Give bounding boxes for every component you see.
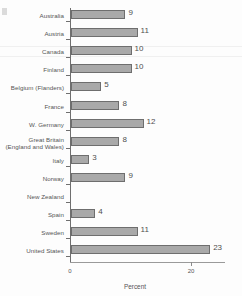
category-tick <box>66 184 70 185</box>
bar-chart: Australia9Austria11Canada10Finland10Belg… <box>0 0 242 296</box>
bar-value-label: 10 <box>135 62 144 71</box>
category-tick <box>66 75 70 76</box>
category-label: Belgium (Flanders) <box>0 84 64 91</box>
chart-row: United States23 <box>0 243 242 261</box>
bar-value-label: 3 <box>92 153 96 162</box>
category-label: Italy <box>0 157 64 164</box>
category-label: Sweden <box>0 229 64 236</box>
x-axis-tick-label: 20 <box>188 268 195 274</box>
chart-row: W. Germany12 <box>0 117 242 135</box>
category-tick <box>66 21 70 22</box>
x-axis-tick <box>191 262 192 266</box>
bar <box>71 82 101 91</box>
category-tick <box>66 93 70 94</box>
category-tick <box>66 39 70 40</box>
category-label: W. Germany <box>0 121 64 128</box>
x-axis-tick-label: 0 <box>68 268 71 274</box>
bar <box>71 227 138 236</box>
bar-value-label: 8 <box>122 99 126 108</box>
category-label: United States <box>0 247 64 254</box>
category-tick <box>66 256 70 257</box>
bar-value-label: 23 <box>213 243 222 252</box>
chart-row: Finland10 <box>0 62 242 80</box>
category-label: Norway <box>0 175 64 182</box>
category-tick <box>66 57 70 58</box>
category-tick <box>66 220 70 221</box>
bar-value-label: 4 <box>98 207 102 216</box>
bar <box>71 137 119 146</box>
category-tick <box>66 148 70 149</box>
chart-row: France8 <box>0 99 242 117</box>
chart-row: Austria11 <box>0 26 242 44</box>
category-label: Austria <box>0 30 64 37</box>
bar <box>71 245 210 254</box>
category-tick <box>66 166 70 167</box>
chart-row: Belgium (Flanders)5 <box>0 80 242 98</box>
category-label: Spain <box>0 211 64 218</box>
bar <box>71 46 132 55</box>
chart-row: Spain4 <box>0 207 242 225</box>
chart-row: Norway9 <box>0 171 242 189</box>
category-label: Finland <box>0 66 64 73</box>
category-label: New Zealand <box>0 193 64 200</box>
bar-value-label: 8 <box>122 135 126 144</box>
bar <box>71 173 125 182</box>
chart-row: Canada10 <box>0 44 242 62</box>
bar <box>71 155 89 164</box>
bar <box>71 101 119 110</box>
chart-row: Italy3 <box>0 153 242 171</box>
bar-value-label: 10 <box>135 44 144 53</box>
bar-value-label: 12 <box>147 117 156 126</box>
category-label: Australia <box>0 12 64 19</box>
chart-row: Great Britain(England and Wales)8 <box>0 135 242 153</box>
chart-row: Sweden11 <box>0 225 242 243</box>
bar-value-label: 9 <box>128 8 132 17</box>
bar-value-label: 11 <box>141 26 149 35</box>
bar <box>71 119 144 128</box>
bar-value-label: 5 <box>104 80 108 89</box>
category-label: Canada <box>0 48 64 55</box>
category-tick <box>66 202 70 203</box>
category-label: Great Britain(England and Wales) <box>0 136 64 150</box>
chart-row: Australia9 <box>0 8 242 26</box>
chart-row: New Zealand <box>0 189 242 207</box>
bar <box>71 209 95 218</box>
x-axis-title: Percent <box>0 283 242 290</box>
bar <box>71 28 138 37</box>
category-tick <box>66 112 70 113</box>
bar-value-label: 11 <box>141 225 149 234</box>
plot-area: Australia9Austria11Canada10Finland10Belg… <box>0 0 242 296</box>
category-tick <box>66 130 70 131</box>
bar <box>71 64 132 73</box>
category-tick <box>66 238 70 239</box>
bar-value-label: 9 <box>128 171 132 180</box>
value-axis-line <box>70 262 225 263</box>
category-label: France <box>0 103 64 110</box>
bar <box>71 10 125 19</box>
